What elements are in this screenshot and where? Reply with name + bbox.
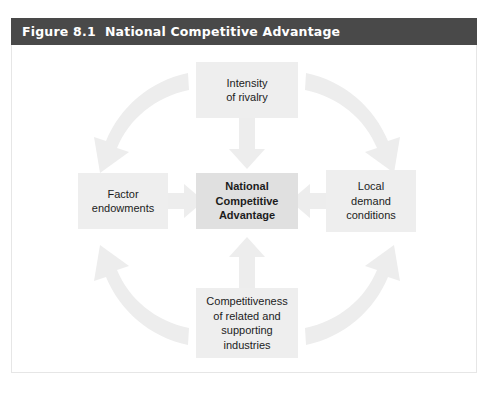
figure-title-bar: Figure 8.1 National Competitive Advantag… (11, 18, 477, 45)
curved-arrow-rivalry-to-factor (94, 73, 189, 173)
node-factor-endowments: Factor endowments (78, 173, 168, 229)
curved-arrow-rivalry-to-demand (305, 73, 400, 173)
curved-arrow-related-to-factor (94, 245, 189, 345)
node-national-competitive-advantage: National Competitive Advantage (196, 173, 298, 229)
node-local-demand-conditions: Local demand conditions (326, 170, 416, 232)
curved-arrow-related-to-demand (305, 245, 400, 345)
figure-container: Figure 8.1 National Competitive Advantag… (0, 0, 489, 394)
node-competitiveness-of-related-and-supporting-industries: Competitiveness of related and supportin… (196, 288, 298, 358)
block-arrow-related-to-center (229, 237, 265, 288)
node-intensity-of-rivalry: Intensity of rivalry (196, 62, 298, 118)
figure-title: Figure 8.1 National Competitive Advantag… (22, 24, 340, 39)
block-arrow-rivalry-to-center (229, 118, 265, 169)
figure-content-frame: Intensity of rivalry Factor endowments N… (11, 45, 477, 373)
